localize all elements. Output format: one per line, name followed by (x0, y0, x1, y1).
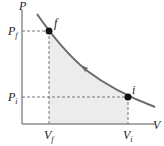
y-axis-label: P (18, 0, 27, 13)
vi-label: Vi (123, 128, 133, 144)
point-f (46, 28, 53, 35)
vf-label: Vf (44, 128, 55, 144)
pf-label: Pf (7, 24, 19, 40)
pv-diagram: P V f i Pf Pi Vf Vi (0, 0, 164, 146)
point-i-label: i (132, 83, 135, 97)
x-axis-label: V (153, 118, 162, 132)
point-f-label: f (54, 16, 59, 30)
pi-label: Pi (7, 90, 18, 106)
point-i (125, 94, 132, 101)
